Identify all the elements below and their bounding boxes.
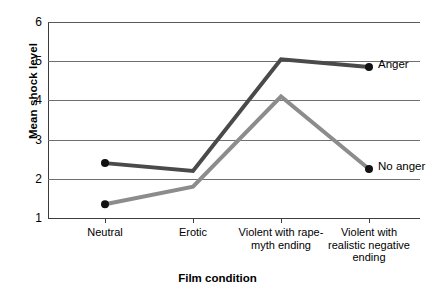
y-tick-label-3: 3	[12, 133, 42, 147]
x-tick-label-erotic-line-1: Erotic	[153, 226, 233, 239]
x-tick-label-violent-realistic-line-3: ending	[317, 251, 421, 264]
x-tick-label-violent-rape-myth-line-2: myth ending	[233, 239, 329, 252]
gridline-1-x-axis	[48, 218, 420, 219]
y-tick-label-2: 2	[12, 172, 42, 186]
gridline-2	[48, 179, 420, 180]
x-tick-label-erotic: Erotic	[153, 226, 233, 239]
y-axis-tick-labels: 6 5 4 3 2 1	[10, 22, 42, 218]
legend-label-no-anger: No anger	[378, 160, 425, 172]
y-tick-label-5: 5	[12, 54, 42, 68]
legend-label-anger: Anger	[378, 58, 409, 70]
x-tick-label-violent-realistic: Violent with realistic negative ending	[317, 226, 421, 264]
x-tick-label-violent-realistic-line-2: realistic negative	[317, 239, 421, 252]
x-tick-mark-violent-realistic	[369, 218, 370, 223]
y-tick-label-4: 4	[12, 93, 42, 107]
x-tick-label-violent-rape-myth-line-1: Violent with rape-	[233, 226, 329, 239]
gridline-4	[48, 100, 420, 101]
x-tick-label-neutral: Neutral	[65, 226, 145, 239]
gridline-3	[48, 140, 420, 141]
chart-figure: Mean shock level 6 5 4 3 2 1 Neutral Ero…	[0, 0, 435, 293]
x-tick-label-neutral-line-1: Neutral	[65, 226, 145, 239]
x-tick-mark-erotic	[193, 218, 194, 223]
y-tick-label-1: 1	[12, 211, 42, 225]
x-axis-title: Film condition	[0, 272, 435, 284]
gridline-6	[48, 22, 420, 23]
x-tick-mark-neutral	[105, 218, 106, 223]
plot-area	[48, 22, 420, 218]
x-tick-mark-violent-rape-myth	[281, 218, 282, 223]
x-tick-label-violent-rape-myth: Violent with rape- myth ending	[233, 226, 329, 251]
x-tick-label-violent-realistic-line-1: Violent with	[317, 226, 421, 239]
gridline-5	[48, 61, 420, 62]
y-tick-label-6: 6	[12, 15, 42, 29]
